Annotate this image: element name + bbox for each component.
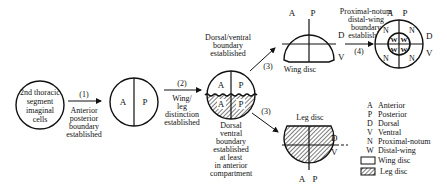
legend-label-notum: Proximal-notum (378, 137, 431, 146)
step2-number: (2) (177, 79, 187, 88)
step3-leg-number: (3) (261, 107, 271, 116)
legend: A Anterior P Posterior D Dorsal V Ventra… (361, 101, 431, 176)
stage3-lower-anterior: A (218, 99, 225, 109)
step1-arrow: (1) Anterior posterior boundary establis… (66, 90, 102, 139)
wing-final-anterior: A (387, 8, 394, 18)
step3-leg-arrow: (3) (252, 107, 278, 132)
legend-key-a: A (367, 101, 373, 110)
leg-disc-swatch-icon (361, 168, 375, 175)
step1-number: (1) (79, 90, 89, 99)
wing-disc: A P D V Wing disc (282, 8, 345, 74)
stage3-lower-posterior: P (238, 99, 243, 109)
wing-final-notum-ul: N (383, 26, 389, 35)
leg-disc-title: Leg disc (296, 113, 324, 122)
wing-final-wing-ll: W (391, 46, 398, 54)
wing-final-wing-lr: W (401, 46, 408, 54)
stage3-caption-7: compartment (210, 169, 253, 178)
legend-label-anterior: Anterior (378, 101, 405, 110)
stage3-upper-anterior: A (218, 80, 225, 90)
wing-disc-ventral: V (338, 52, 345, 62)
leg-disc-ventral: V (331, 147, 338, 157)
step3-wing-caption-3: established (210, 49, 246, 58)
wing-final-notum-ur: N (409, 26, 415, 35)
stage2-posterior: P (142, 97, 147, 107)
legend-label-ventral: Ventral (378, 128, 402, 137)
stage2-circle: A P (110, 78, 158, 126)
step3-wing-number: (3) (263, 62, 273, 71)
stage2-anterior: A (120, 97, 127, 107)
leg-disc-posterior: P (312, 174, 317, 184)
legend-label-wing-disc: Wing disc (378, 156, 411, 165)
wing-final-dorsal: D (426, 31, 433, 41)
wing-disc-anterior: A (289, 8, 296, 18)
legend-label-wing: Distal-wing (378, 146, 416, 155)
leg-disc-anterior: A (299, 174, 306, 184)
stage1-label-4: cells (33, 115, 48, 124)
wing-final-notum-ll: N (383, 54, 389, 63)
legend-key-v: V (367, 128, 373, 137)
step2-arrow: (2) Wing/ leg distinction established (164, 79, 201, 127)
legend-label-leg-disc: Leg disc (380, 167, 408, 176)
legend-key-w: W (366, 146, 374, 155)
step3-wing-arrow: Dorsal/ventral boundary established (3) (205, 33, 275, 71)
stage3-circle: A P A P Dorsal ventral boundary establis… (205, 71, 257, 178)
stage1-label-1: 2nd thoracic (20, 88, 60, 97)
leg-disc: Leg disc D V A P (282, 113, 348, 184)
legend-label-dorsal: Dorsal (378, 119, 400, 128)
legend-key-d: D (367, 119, 373, 128)
wing-final-wing-ul: W (391, 36, 398, 44)
wing-disc-title: Wing disc (284, 65, 317, 74)
wing-final-posterior: P (402, 8, 407, 18)
wing-disc-swatch-icon (361, 157, 375, 164)
wing-final-notum-lr: N (409, 54, 415, 63)
developmental-diagram: 2nd thoracic segment imaginal cells (1) … (0, 0, 447, 191)
wing-disc-posterior: P (310, 8, 315, 18)
wing-final-ventral: V (426, 48, 433, 58)
legend-label-posterior: Posterior (378, 110, 407, 119)
stage3-upper-posterior: P (238, 80, 243, 90)
step1-caption-4: established (66, 130, 102, 139)
legend-key-p: P (368, 110, 373, 119)
legend-key-n: N (367, 137, 373, 146)
step2-caption-4: established (164, 118, 200, 127)
leg-disc-dorsal: D (331, 133, 338, 143)
step4-number: (4) (354, 47, 364, 56)
stage1-label-2: segment (27, 97, 54, 106)
wing-final-wing-ur: W (401, 36, 408, 44)
stage1-circle: 2nd thoracic segment imaginal cells (16, 81, 64, 129)
wing-disc-dorsal: D (338, 30, 345, 40)
stage1-label-3: imaginal (26, 106, 55, 115)
